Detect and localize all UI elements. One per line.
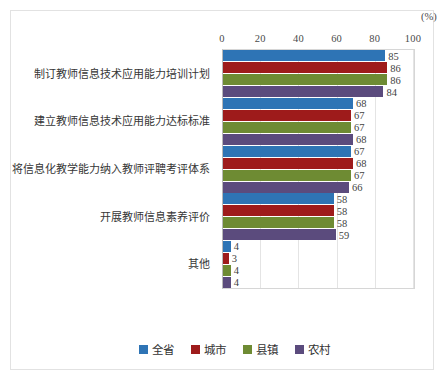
- x-axis-tick-80: 80: [369, 33, 380, 44]
- bar-城市-制订教师信息技术应用能力培训计划[interactable]: [223, 62, 387, 73]
- bar-value-label: 68: [353, 134, 367, 145]
- chart-legend: 全省城市县镇农村: [11, 341, 446, 357]
- bar-城市-将信息化教学能力纳入教师评聘考评体系[interactable]: [223, 158, 353, 169]
- bar-row: 4: [223, 277, 414, 288]
- x-axis-tick-60: 60: [331, 33, 342, 44]
- bar-value-label: 58: [334, 217, 348, 228]
- bar-value-label: 59: [336, 229, 350, 240]
- legend-swatch-icon: [243, 345, 252, 354]
- bar-农村-将信息化教学能力纳入教师评聘考评体系[interactable]: [223, 182, 349, 193]
- bar-value-label: 4: [231, 265, 239, 276]
- bar-row: 66: [223, 182, 414, 193]
- bar-value-label: 58: [334, 205, 348, 216]
- bar-农村-建立教师信息技术应用能力达标标准[interactable]: [223, 134, 353, 145]
- bar-县镇-其他[interactable]: [223, 265, 231, 276]
- legend-label: 城市: [204, 341, 226, 357]
- bar-县镇-制订教师信息技术应用能力培训计划[interactable]: [223, 74, 387, 85]
- bar-row: 86: [223, 62, 414, 73]
- bar-row: 58: [223, 205, 414, 216]
- bar-value-label: 4: [231, 277, 239, 288]
- bar-row: 86: [223, 74, 414, 85]
- bar-row: 68: [223, 134, 414, 145]
- category-label: 其他: [11, 255, 216, 271]
- bar-value-label: 86: [387, 74, 401, 85]
- plot-area: 858686846867676867686766585858594344: [222, 49, 415, 289]
- legend-swatch-icon: [139, 345, 148, 354]
- bar-row: 59: [223, 229, 414, 240]
- x-axis-unit-label: (%): [421, 11, 437, 22]
- bar-row: 68: [223, 98, 414, 109]
- bar-row: 58: [223, 193, 414, 204]
- bar-城市-开展教师信息素养评价[interactable]: [223, 205, 334, 216]
- bar-农村-制订教师信息技术应用能力培训计划[interactable]: [223, 86, 383, 97]
- bar-value-label: 67: [351, 146, 365, 157]
- bar-value-label: 66: [349, 182, 363, 193]
- bar-value-label: 3: [229, 253, 237, 264]
- bar-value-label: 67: [351, 170, 365, 181]
- bar-县镇-建立教师信息技术应用能力达标标准[interactable]: [223, 122, 351, 133]
- legend-label: 县镇: [256, 341, 278, 357]
- bar-全省-建立教师信息技术应用能力达标标准[interactable]: [223, 98, 353, 109]
- bar-全省-开展教师信息素养评价[interactable]: [223, 193, 334, 204]
- bar-value-label: 85: [385, 50, 399, 61]
- bar-row: 85: [223, 50, 414, 61]
- bar-县镇-开展教师信息素养评价[interactable]: [223, 217, 334, 228]
- legend-item-县镇[interactable]: 县镇: [243, 341, 278, 357]
- bar-group: 67686766: [223, 146, 414, 194]
- category-label: 制订教师信息技术应用能力培训计划: [11, 65, 216, 81]
- bar-row: 4: [223, 241, 414, 252]
- bar-全省-将信息化教学能力纳入教师评聘考评体系[interactable]: [223, 146, 351, 157]
- legend-item-城市[interactable]: 城市: [191, 341, 226, 357]
- bar-value-label: 58: [334, 193, 348, 204]
- bar-group: 4344: [223, 241, 414, 289]
- bar-row: 67: [223, 170, 414, 181]
- x-axis-tick-labels: 020406080100: [212, 33, 446, 49]
- bar-row: 67: [223, 122, 414, 133]
- bar-group: 58585859: [223, 193, 414, 241]
- bar-全省-其他[interactable]: [223, 241, 231, 252]
- legend-swatch-icon: [191, 345, 200, 354]
- category-label: 开展教师信息素养评价: [11, 208, 216, 224]
- bar-row: 68: [223, 158, 414, 169]
- bar-城市-建立教师信息技术应用能力达标标准[interactable]: [223, 110, 351, 121]
- bar-row: 84: [223, 86, 414, 97]
- bar-row: 3: [223, 253, 414, 264]
- bar-全省-制订教师信息技术应用能力培训计划[interactable]: [223, 50, 385, 61]
- bar-value-label: 84: [383, 86, 397, 97]
- x-axis-tick-100: 100: [405, 33, 421, 44]
- legend-swatch-icon: [295, 345, 304, 354]
- bar-value-label: 67: [351, 122, 365, 133]
- x-axis-tick-40: 40: [293, 33, 304, 44]
- bar-group: 85868684: [223, 50, 414, 98]
- bar-value-label: 86: [387, 62, 401, 73]
- legend-label: 全省: [152, 341, 174, 357]
- bar-value-label: 4: [231, 241, 239, 252]
- bar-row: 58: [223, 217, 414, 228]
- bar-农村-开展教师信息素养评价[interactable]: [223, 229, 336, 240]
- x-axis-tick-0: 0: [219, 33, 224, 44]
- legend-item-全省[interactable]: 全省: [139, 341, 174, 357]
- chart-frame: 020406080100 (%) 85868684686767686768676…: [10, 10, 434, 370]
- bar-value-label: 68: [353, 98, 367, 109]
- bar-value-label: 67: [351, 110, 365, 121]
- bar-group: 68676768: [223, 98, 414, 146]
- x-axis-tick-20: 20: [255, 33, 266, 44]
- bar-row: 67: [223, 146, 414, 157]
- legend-label: 农村: [308, 341, 330, 357]
- bar-value-label: 68: [353, 158, 367, 169]
- bar-农村-其他[interactable]: [223, 277, 231, 288]
- category-label: 将信息化教学能力纳入教师评聘考评体系: [11, 160, 216, 176]
- legend-item-农村[interactable]: 农村: [295, 341, 330, 357]
- bar-县镇-将信息化教学能力纳入教师评聘考评体系[interactable]: [223, 170, 351, 181]
- bar-row: 67: [223, 110, 414, 121]
- category-label: 建立教师信息技术应用能力达标标准: [11, 112, 216, 128]
- bar-row: 4: [223, 265, 414, 276]
